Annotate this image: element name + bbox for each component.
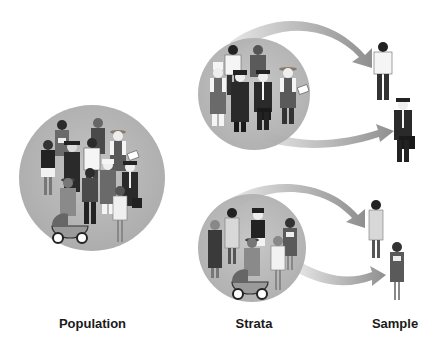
stratified-sampling-diagram: Population Strata Sample [0, 0, 433, 343]
strata-label: Strata [224, 316, 284, 331]
diagram-canvas [0, 0, 433, 343]
sample-group [369, 42, 415, 300]
sample-person-woman-dark-dress [390, 242, 404, 300]
strata-men-group [198, 38, 310, 150]
sample-label: Sample [365, 316, 425, 331]
sample-person-man-white-shirt [374, 42, 392, 100]
sample-person-businessman [394, 98, 415, 162]
strata-women-group [198, 194, 306, 302]
population-label: Population [40, 316, 145, 331]
population-group [19, 105, 165, 251]
sample-person-woman-light-dress [369, 200, 383, 258]
arrow-bottom-strata-to-sample-2 [296, 262, 386, 286]
